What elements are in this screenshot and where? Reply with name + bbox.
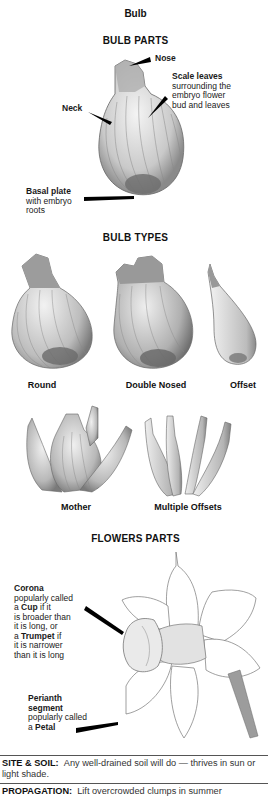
divider — [0, 755, 268, 756]
scale-leaves-label: Scale leaves surrounding the embryo flow… — [172, 72, 231, 110]
divider — [0, 783, 268, 784]
round-bulb-illustration — [8, 252, 96, 370]
neck-label: Neck — [62, 104, 82, 114]
site-soil-info: SITE & SOIL: Any well-drained soil will … — [2, 758, 268, 780]
round-label: Round — [12, 380, 72, 390]
mother-label: Mother — [46, 502, 106, 512]
multiple-offsets-label: Multiple Offsets — [146, 502, 230, 512]
basal-plate-label: Basal plate with embryo roots — [26, 187, 72, 216]
nose-label: Nose — [155, 54, 176, 64]
offset-label: Offset — [218, 380, 268, 390]
double-nosed-bulb-illustration — [112, 254, 196, 370]
corona-label: Corona popularly called a Cup if it is b… — [14, 584, 73, 660]
multiple-offsets-illustration — [143, 414, 235, 500]
bulb-types-heading: BULB TYPES — [0, 232, 271, 243]
perianth-label: Perianth segment popularly called a Peta… — [28, 694, 87, 732]
propagation-info: PROPAGATION: Lift overcrowded clumps in … — [2, 786, 268, 797]
mother-bulb-illustration — [22, 398, 132, 494]
offset-bulb-illustration — [206, 262, 260, 366]
double-nosed-label: Double Nosed — [114, 380, 198, 390]
